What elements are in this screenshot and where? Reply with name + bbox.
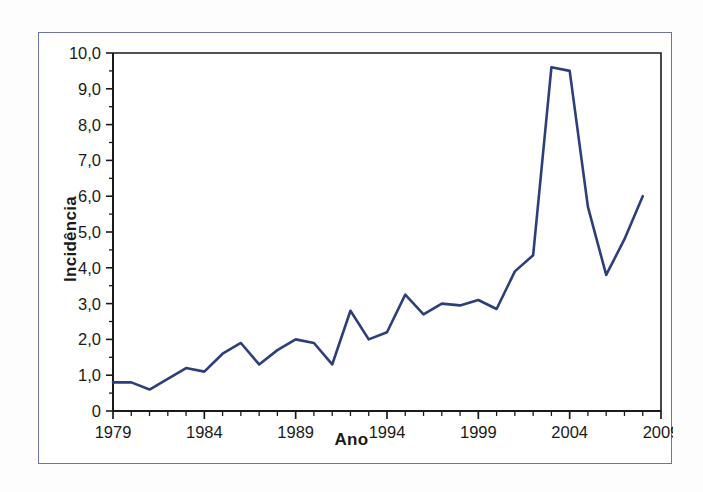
incidence-series-line	[113, 67, 643, 389]
y-axis-ticks	[106, 53, 113, 411]
y-tick-label: 7,0	[78, 151, 101, 169]
chart-figure: 01,02,03,04,05,06,07,08,09,010,0 1979198…	[0, 0, 703, 492]
y-tick-label: 8,0	[78, 116, 101, 134]
y-tick-label: 3,0	[78, 295, 101, 313]
chart-axes	[113, 53, 661, 411]
y-axis-title: Incidência	[61, 169, 81, 309]
y-tick-label: 6,0	[78, 187, 101, 205]
y-tick-label: 4,0	[78, 259, 101, 277]
x-axis-ticks	[113, 411, 661, 419]
y-tick-label: 10,0	[69, 44, 101, 62]
y-tick-label: 1,0	[78, 366, 101, 384]
y-tick-label: 9,0	[78, 80, 101, 98]
x-axis-title: Ano	[0, 430, 703, 450]
series-polyline	[113, 67, 643, 389]
y-tick-label: 2,0	[78, 330, 101, 348]
y-tick-label: 0	[92, 402, 101, 420]
line-chart-plot: 01,02,03,04,05,06,07,08,09,010,0 1979198…	[39, 33, 673, 465]
y-tick-label: 5,0	[78, 223, 101, 241]
figure-border: 01,02,03,04,05,06,07,08,09,010,0 1979198…	[38, 32, 672, 464]
